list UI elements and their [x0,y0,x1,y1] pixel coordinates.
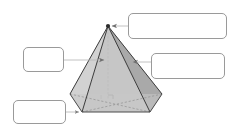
diagram-canvas [0,0,233,134]
base-edge-callout[interactable] [13,100,66,124]
apex-callout[interactable] [128,13,227,39]
height-callout[interactable] [23,47,64,72]
slant-height-callout[interactable] [151,53,225,79]
